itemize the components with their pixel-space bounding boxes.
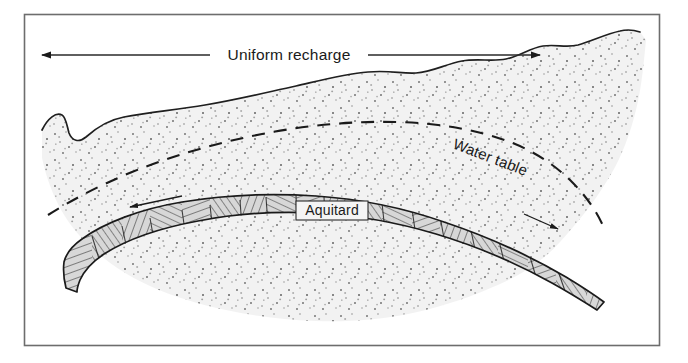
label-aquitard: Aquitard (305, 202, 359, 218)
cross-section-diagram: Uniform recharge Water table Aquitard (0, 0, 688, 363)
label-uniform-recharge: Uniform recharge (228, 46, 351, 63)
label-aquitard-group: Aquitard (296, 201, 368, 220)
figure-canvas: Uniform recharge Water table Aquitard (0, 0, 688, 363)
